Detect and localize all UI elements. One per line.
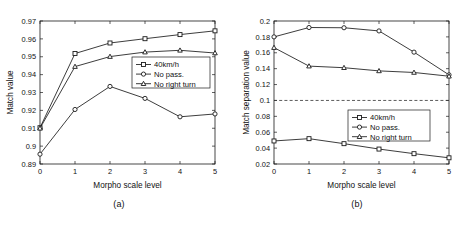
data-point-square [143,37,147,41]
data-point-triangle [342,65,347,69]
y-tick-label: 0.02 [256,160,270,169]
figure-container: 0.890.90.910.920.930.940.950.960.9701234… [0,0,476,226]
data-point-triangle [307,64,312,68]
x-tick-label: 1 [73,167,77,176]
series-line-no-pass [40,86,215,154]
y-axis-title: Match separation value [242,50,251,135]
data-point-square [307,137,311,141]
x-tick-label: 2 [108,167,112,176]
data-point-circle [377,29,381,33]
chart-a-svg: 0.890.90.910.920.930.940.950.960.9701234… [0,0,238,226]
data-point-circle [213,112,217,116]
y-tick-label: 0.12 [256,80,270,89]
legend-marker-circle [141,72,145,76]
legend-label: 40km/h [370,113,395,122]
legend: 40km/hNo pass.No right turn [348,110,430,142]
data-point-triangle [108,54,113,58]
data-point-triangle [143,50,148,54]
y-tick-label: 0.96 [22,35,36,44]
y-tick-label: 0.97 [22,17,36,26]
y-tick-label: 0.92 [22,106,36,115]
y-axis-title: Match value [6,70,15,115]
x-tick-label: 0 [272,167,276,176]
y-tick-label: 0.04 [256,144,270,153]
x-tick-label: 3 [377,167,381,176]
data-point-triangle [377,68,382,72]
data-point-square [377,147,381,151]
x-axis-title: Morpho scale level [327,181,395,190]
data-point-square [272,139,276,143]
chart-panel-b: 0.020.040.060.080.10.120.140.160.180.201… [238,0,476,226]
data-point-circle [73,107,77,111]
y-tick-label: 0.2 [260,17,270,26]
data-point-triangle [213,51,218,55]
data-point-square [342,142,346,146]
legend-label: No right turn [154,80,196,89]
data-point-square [447,156,451,160]
data-point-circle [108,84,112,88]
x-tick-label: 4 [178,167,182,176]
data-point-triangle [178,48,183,52]
legend-marker-square [142,63,146,67]
y-tick-label: 0.14 [256,64,270,73]
series-line-40km-h [274,139,449,158]
x-tick-label: 2 [342,167,346,176]
data-point-square [178,33,182,37]
data-point-square [213,29,217,33]
data-point-circle [272,35,276,39]
data-point-circle [143,96,147,100]
legend-label: No pass. [370,123,400,132]
x-tick-label: 5 [447,167,451,176]
subfigure-caption-b: (b) [238,199,476,209]
data-point-circle [178,115,182,119]
data-point-circle [307,25,311,29]
y-tick-label: 0.93 [22,88,36,97]
x-tick-label: 5 [213,167,217,176]
data-point-circle [38,152,42,156]
data-point-circle [412,50,416,54]
x-tick-label: 3 [143,167,147,176]
y-tick-label: 0.1 [260,96,270,105]
series-line-no-right-turn [274,48,449,77]
chart-panel-a: 0.890.90.910.920.930.940.950.960.9701234… [0,0,238,226]
data-point-triangle [412,70,417,74]
legend-label: 40km/h [154,60,179,69]
y-tick-label: 0.9 [26,142,36,151]
data-point-square [412,152,416,156]
subfigure-caption-a: (a) [0,199,238,209]
data-point-circle [342,26,346,30]
data-point-triangle [272,45,277,49]
legend-label: No pass. [154,70,184,79]
legend-marker-circle [357,125,361,129]
plot-frame [274,21,449,164]
y-tick-label: 0.95 [22,52,36,61]
x-tick-label: 0 [38,167,42,176]
y-tick-label: 0.06 [256,128,270,137]
data-point-triangle [73,64,78,68]
y-tick-label: 0.91 [22,124,36,133]
legend-label: No right turn [370,133,412,142]
x-tick-label: 4 [412,167,416,176]
series-line-no-pass [274,28,449,75]
data-point-square [108,41,112,45]
chart-b-svg: 0.020.040.060.080.10.120.140.160.180.201… [238,0,476,226]
y-tick-label: 0.89 [22,160,36,169]
y-tick-label: 0.16 [256,48,270,57]
data-point-square [73,52,77,56]
x-tick-label: 1 [307,167,311,176]
y-tick-label: 0.08 [256,112,270,121]
y-tick-label: 0.94 [22,70,36,79]
legend-marker-square [358,116,362,120]
legend: 40km/hNo pass.No right turn [132,57,210,89]
x-axis-title: Morpho scale level [93,181,161,190]
y-tick-label: 0.18 [256,33,270,42]
